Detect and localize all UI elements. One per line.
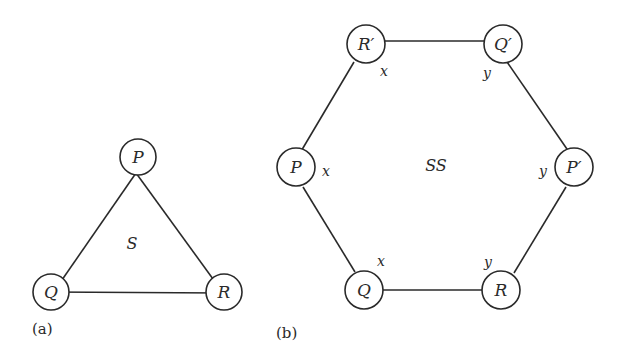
svg-text:R: R <box>494 280 508 300</box>
edge-q-r <box>48 292 222 293</box>
panel-caption-a: (a) <box>32 320 53 338</box>
side-label-q-prime: y <box>482 65 492 81</box>
node-p-prime: P′ <box>555 148 593 186</box>
side-label-r: y <box>483 254 493 270</box>
node-r-prime: R′ <box>347 25 385 63</box>
side-label-p-prime: y <box>538 163 548 179</box>
svg-text:P: P <box>289 157 302 177</box>
svg-text:Q: Q <box>44 282 58 302</box>
panel-a: P Q R S (a) <box>32 139 242 338</box>
node-p: P <box>277 148 315 186</box>
edge-q1-p1 <box>505 59 569 152</box>
edge-q-p <box>303 187 355 272</box>
node-p: P <box>120 139 156 175</box>
edge-p-r <box>136 173 221 290</box>
svg-text:P: P <box>131 147 144 167</box>
svg-text:R′: R′ <box>357 34 375 54</box>
side-label-r-prime: x <box>380 63 388 79</box>
node-r: R <box>206 274 242 310</box>
side-label-q: x <box>377 253 385 269</box>
edge-p-r1 <box>300 62 354 153</box>
svg-text:R: R <box>217 282 231 302</box>
node-q-prime: Q′ <box>484 25 522 63</box>
edge-p-q <box>55 173 136 290</box>
diagram-canvas: P Q R S (a) R′ Q′ P <box>0 0 628 358</box>
region-label-ss: SS <box>425 156 447 175</box>
node-q: Q <box>33 274 69 310</box>
svg-text:Q′: Q′ <box>494 34 512 54</box>
node-r: R <box>482 271 520 309</box>
region-label-s: S <box>127 234 138 253</box>
svg-text:P′: P′ <box>565 157 581 177</box>
svg-text:Q: Q <box>357 280 371 300</box>
panel-caption-b: (b) <box>276 324 297 342</box>
node-q: Q <box>345 271 383 309</box>
side-label-p: x <box>322 163 330 179</box>
edge-p1-r <box>514 187 566 273</box>
panel-b: R′ Q′ P P′ Q R x y x y x y SS (b) <box>276 25 593 342</box>
